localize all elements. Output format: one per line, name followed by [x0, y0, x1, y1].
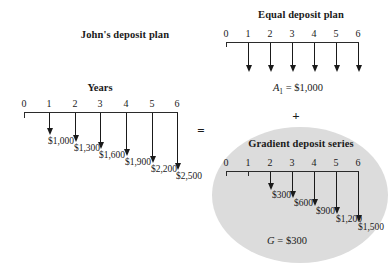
gradient-timeline-label-1: 1 — [246, 157, 251, 168]
gradient-timeline-tick-1 — [248, 171, 249, 176]
gradient-arrow-head-year-6 — [356, 215, 362, 222]
cash-flow-arrow-head-year-4 — [124, 149, 130, 156]
equal-arrow-shaft-year-6 — [358, 43, 359, 67]
cash-flow-amount-year-5: $2,200 — [151, 164, 177, 174]
gradient-timeline-tick-0 — [226, 171, 227, 176]
gradient-timeline-label-3: 3 — [290, 157, 295, 168]
gradient-timeline-label-5: 5 — [334, 157, 339, 168]
equal-timeline-label-0: 0 — [224, 28, 229, 39]
timeline-label-6: 6 — [175, 98, 180, 109]
cash-flow-diagram-figure: John's deposit plan Years 0 1 2 3 4 5 6 … — [0, 0, 388, 272]
gradient-amount-year-6: $1,500 — [358, 222, 384, 232]
gradient-deposit-series-panel: Gradient deposit series 0 1 2 3 4 5 6 $3… — [212, 127, 388, 272]
equal-arrow-shaft-year-1 — [248, 43, 249, 67]
equal-arrow-shaft-year-2 — [270, 43, 271, 67]
timeline-label-0: 0 — [22, 98, 27, 109]
gradient-symbol: G — [267, 235, 275, 246]
cash-flow-arrow-head-year-3 — [98, 142, 104, 149]
gradient-amount-year-3: $600 — [294, 198, 313, 208]
equal-deposit-plan-panel: Equal deposit plan 0 1 2 3 4 5 6 A1 = $1… — [212, 0, 388, 110]
equal-timeline-label-1: 1 — [246, 28, 251, 39]
cash-flow-arrow-shaft-year-6 — [177, 113, 178, 165]
gradient-arrow-shaft-year-4 — [314, 172, 315, 201]
equal-timeline-label-5: 5 — [334, 28, 339, 39]
equal-timeline-tick-0 — [226, 42, 227, 47]
equal-arrow-shaft-year-3 — [292, 43, 293, 67]
equal-timeline-label-3: 3 — [290, 28, 295, 39]
equal-arrow-head-year-6 — [356, 65, 362, 72]
equals-operator: = — [197, 124, 204, 137]
cash-flow-arrow-head-year-6 — [175, 163, 181, 170]
cash-flow-arrow-shaft-year-4 — [126, 113, 127, 151]
gradient-arrow-shaft-year-3 — [292, 172, 293, 193]
equal-deposit-plan-title: Equal deposit plan — [228, 9, 374, 20]
years-axis-caption: Years — [60, 82, 140, 93]
equal-arrow-head-year-4 — [312, 65, 318, 72]
gradient-value: = $300 — [277, 235, 307, 246]
gradient-arrow-shaft-year-5 — [336, 172, 337, 209]
timeline-label-3: 3 — [98, 98, 103, 109]
cash-flow-amount-year-1: $1,000 — [48, 136, 74, 146]
cash-flow-arrow-head-year-5 — [150, 156, 156, 163]
gradient-amount-year-4: $900 — [316, 206, 335, 216]
johns-deposit-plan-title: John's deposit plan — [60, 29, 190, 40]
equal-deposit-subscript: 1 — [279, 87, 283, 96]
gradient-arrow-head-year-2 — [268, 183, 274, 190]
cash-flow-amount-year-3: $1,600 — [99, 150, 125, 160]
cash-flow-arrow-shaft-year-2 — [75, 113, 76, 137]
timeline-label-1: 1 — [47, 98, 52, 109]
cash-flow-amount-year-2: $1,300 — [74, 143, 100, 153]
gradient-arrow-head-year-4 — [312, 199, 318, 206]
cash-flow-arrow-head-year-2 — [73, 135, 79, 142]
gradient-arrow-head-year-5 — [334, 207, 340, 214]
johns-deposit-plan-panel: John's deposit plan Years 0 1 2 3 4 5 6 … — [0, 0, 200, 272]
gradient-arrow-shaft-year-6 — [358, 172, 359, 217]
gradient-timeline-label-0: 0 — [224, 157, 229, 168]
timeline-label-5: 5 — [150, 98, 155, 109]
equal-arrow-head-year-3 — [290, 65, 296, 72]
timeline-tick-0 — [24, 112, 25, 118]
cash-flow-amount-year-6: $2,500 — [176, 171, 202, 181]
equal-arrow-head-year-5 — [334, 65, 340, 72]
cash-flow-arrow-shaft-year-5 — [152, 113, 153, 158]
equal-arrow-shaft-year-5 — [336, 43, 337, 67]
gradient-timeline-label-4: 4 — [312, 157, 317, 168]
gradient-deposit-series-title: Gradient deposit series — [222, 138, 380, 149]
gradient-arrow-head-year-3 — [290, 191, 296, 198]
gradient-timeline-label-2: 2 — [268, 157, 273, 168]
equal-arrow-shaft-year-4 — [314, 43, 315, 67]
cash-flow-amount-year-4: $1,900 — [125, 157, 151, 167]
timeline-axis-line — [24, 112, 178, 113]
cash-flow-arrow-shaft-year-3 — [100, 113, 101, 144]
equal-arrow-head-year-1 — [246, 65, 252, 72]
gradient-timeline-label-6: 6 — [356, 157, 361, 168]
timeline-label-2: 2 — [73, 98, 78, 109]
gradient-amount-year-2: $300 — [272, 190, 291, 200]
timeline-label-4: 4 — [124, 98, 129, 109]
equal-deposit-equation: A1 = $1,000 — [273, 82, 323, 96]
plus-operator: + — [292, 109, 299, 122]
gradient-equation: G = $300 — [267, 235, 307, 246]
equal-timeline-label-2: 2 — [268, 28, 273, 39]
equal-timeline-label-4: 4 — [312, 28, 317, 39]
cash-flow-arrow-head-year-1 — [47, 128, 53, 135]
equal-deposit-value: = $1,000 — [286, 82, 323, 93]
equal-timeline-label-6: 6 — [356, 28, 361, 39]
equal-arrow-head-year-2 — [268, 65, 274, 72]
